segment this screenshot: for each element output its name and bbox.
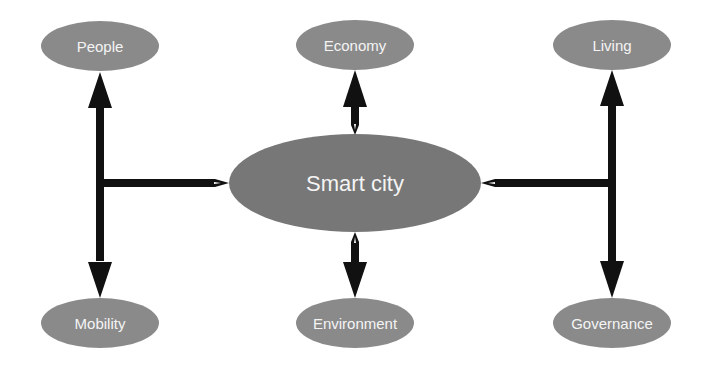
node-governance[interactable]: Governance <box>553 298 671 348</box>
node-smart-city[interactable]: Smart city <box>229 134 481 232</box>
arrowhead-economy <box>343 70 367 107</box>
connector-governance-shaft <box>608 179 616 263</box>
node-environment-label: Environment <box>313 315 398 332</box>
arrowhead-environment <box>343 262 367 298</box>
connector-left-bar <box>100 179 229 187</box>
node-people-label: People <box>77 38 124 55</box>
node-economy[interactable]: Economy <box>296 20 414 70</box>
node-mobility-label: Mobility <box>75 315 126 332</box>
arrowhead-mobility <box>88 262 112 298</box>
connector-right-bar <box>481 179 616 187</box>
node-environment[interactable]: Environment <box>296 298 414 348</box>
arrowhead-people <box>88 72 112 108</box>
node-economy-label: Economy <box>324 37 387 54</box>
node-mobility[interactable]: Mobility <box>41 298 159 348</box>
connector-economy-shaft <box>351 104 359 135</box>
arrowhead-governance <box>600 261 624 298</box>
connector-environment-shaft <box>351 232 359 265</box>
node-living[interactable]: Living <box>553 20 671 70</box>
node-smart-city-label: Smart city <box>306 171 404 196</box>
connector-living-shaft <box>608 102 616 187</box>
node-living-label: Living <box>592 37 631 54</box>
connector-mobility-shaft <box>96 179 104 261</box>
node-people[interactable]: People <box>41 21 159 71</box>
node-governance-label: Governance <box>571 315 653 332</box>
smart-city-diagram: People Economy Living Mobility Environme… <box>0 0 716 376</box>
arrowhead-living <box>600 70 624 106</box>
connector-people-shaft <box>96 105 104 187</box>
